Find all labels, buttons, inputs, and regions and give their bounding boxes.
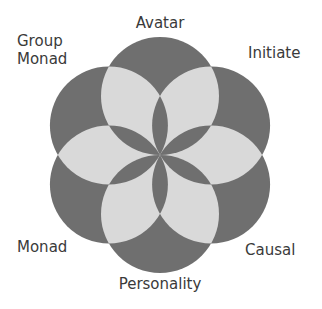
label-group-monad-line1: Group [17, 32, 63, 50]
label-causal: Causal [245, 241, 295, 259]
label-initiate: Initiate [248, 44, 300, 62]
label-personality: Personality [119, 275, 202, 293]
label-monad: Monad [17, 238, 67, 256]
label-avatar: Avatar [136, 14, 186, 32]
rosette-diagram: Avatar Initiate Causal Personality Monad… [0, 0, 322, 309]
label-group-monad-line2: Monad [17, 50, 67, 68]
